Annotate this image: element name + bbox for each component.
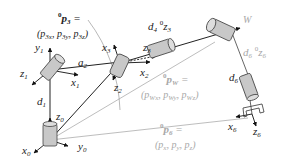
label-d4-z3: d4 0z3 (148, 20, 171, 34)
label-p3-title: 0p3 = (58, 12, 81, 26)
label-x1: x1 (71, 77, 79, 90)
label-x6: x6 (228, 121, 236, 134)
label-x2: x2 (140, 67, 148, 80)
joint-4 (147, 38, 177, 59)
label-a2: a2 (78, 57, 87, 70)
kinematics-diagram: 0p3 = (p3x, p3y, p3z) y1 z1 x1 a2 d1 z0 … (0, 0, 286, 165)
joint-2 (109, 53, 130, 78)
label-x3: x3 (102, 42, 110, 55)
label-z1: z1 (20, 68, 28, 81)
joint-1 (40, 53, 67, 81)
joint-base (43, 122, 57, 147)
label-p6-title: 0p6 = (160, 123, 183, 137)
label-d6-z6: d6 0z6 (243, 46, 266, 60)
joint-6 (239, 73, 259, 102)
label-y1: y1 (35, 42, 43, 55)
label-d6: d6 (229, 72, 238, 85)
label-d1: d1 (37, 96, 46, 109)
label-pW-coords: (pWx, pWy, pWz) (141, 90, 199, 102)
label-z0: z0 (56, 111, 64, 124)
label-z3: z3 (143, 42, 151, 55)
label-pW-title: 0pW = (163, 73, 188, 87)
label-p6-coords: (px, py, pz) (155, 140, 196, 152)
label-z2: z2 (114, 82, 122, 95)
label-wrist-W: W (243, 15, 251, 25)
label-y0: y0 (78, 141, 86, 154)
label-z6: z6 (253, 126, 261, 139)
label-x0: x0 (22, 145, 30, 158)
joint-wrist (205, 17, 236, 42)
label-p3-coords: (p3x, p3y, p3z) (37, 29, 88, 41)
